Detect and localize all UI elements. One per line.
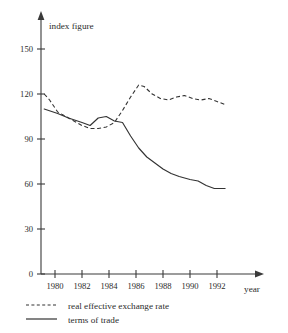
y-tick-label-30: 30 bbox=[24, 224, 33, 234]
chart-figure: 0 30 60 90 120 150 1980 1982 1984 1986 1… bbox=[0, 0, 288, 333]
chart-legend: real effective exchange rate terms of tr… bbox=[26, 301, 169, 325]
x-tick-label-1988: 1988 bbox=[154, 281, 171, 291]
legend-label-terms-of-trade: terms of trade bbox=[68, 315, 119, 325]
series-line-real-effective-exchange-rate bbox=[44, 85, 225, 129]
x-tick-label-1986: 1986 bbox=[127, 281, 145, 291]
x-tick-labels: 1980 1982 1984 1986 1988 1990 1992 bbox=[46, 281, 225, 291]
x-tick-label-1982: 1982 bbox=[73, 281, 90, 291]
x-tick-label-1990: 1990 bbox=[181, 281, 198, 291]
y-axis bbox=[38, 11, 45, 274]
y-tick-label-60: 60 bbox=[24, 179, 33, 189]
series-line-terms-of-trade bbox=[44, 109, 225, 189]
y-tick-labels: 0 30 60 90 120 150 bbox=[20, 44, 33, 279]
y-tick-label-90: 90 bbox=[24, 134, 33, 144]
y-tick-label-0: 0 bbox=[29, 269, 33, 279]
x-axis-arrow-icon bbox=[255, 271, 264, 278]
x-tick-label-1992: 1992 bbox=[208, 281, 225, 291]
legend-label-real-effective-exchange-rate: real effective exchange rate bbox=[68, 301, 169, 311]
x-axis bbox=[41, 271, 264, 278]
y-tick-label-120: 120 bbox=[20, 89, 33, 99]
y-tick-label-150: 150 bbox=[20, 44, 33, 54]
line-chart-svg: 0 30 60 90 120 150 1980 1982 1984 1986 1… bbox=[0, 0, 288, 333]
y-axis-arrow-icon bbox=[38, 11, 45, 20]
x-axis-title: year bbox=[244, 284, 260, 294]
y-axis-title: index figure bbox=[49, 21, 94, 31]
x-tick-label-1980: 1980 bbox=[46, 281, 63, 291]
x-tick-label-1984: 1984 bbox=[100, 281, 118, 291]
